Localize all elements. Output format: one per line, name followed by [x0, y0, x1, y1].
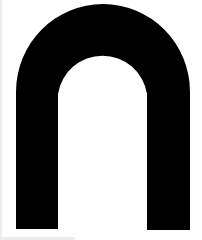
- arch-shape: [0, 0, 202, 240]
- arch-icon: [16, 4, 190, 230]
